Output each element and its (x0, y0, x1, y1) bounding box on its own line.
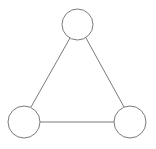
edge-top-bottom-left (31, 38, 70, 107)
triangle-graph-diagram (0, 0, 156, 149)
node-bottom-left (8, 106, 40, 138)
graph-nodes (8, 9, 146, 138)
node-top (62, 9, 93, 40)
graph-edges (31, 38, 124, 122)
node-bottom-right (114, 106, 146, 138)
edge-top-bottom-right (86, 38, 124, 107)
